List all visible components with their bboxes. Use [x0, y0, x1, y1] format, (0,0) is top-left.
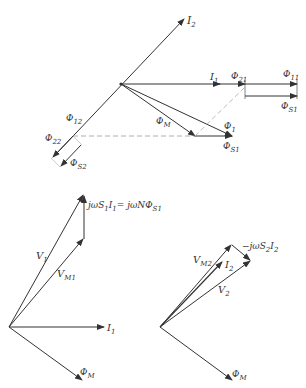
phim-arrow — [121, 84, 195, 136]
phi1-arrow — [121, 84, 232, 136]
svg-text:ΦS1: ΦS1 — [223, 141, 240, 154]
svg-text:ΦS2: ΦS2 — [70, 158, 87, 171]
svg-text:V1: V1 — [36, 250, 48, 264]
phi12-tick — [73, 136, 82, 145]
svg-text:I1: I1 — [106, 322, 115, 336]
svg-text:VM2: VM2 — [193, 254, 212, 268]
svg-text:ΦM: ΦM — [232, 369, 247, 382]
vm1-arrow — [9, 239, 83, 327]
secondary-voltage-phasor-diagram: −jωS2I2 VM2 I2 V2 ΦM — [160, 241, 279, 382]
svg-text:Φ1: Φ1 — [224, 121, 236, 134]
origin-point — [119, 82, 122, 85]
top-phasor-diagram: I2 I1 Φ21 Φ11 ΦS1 ΦM Φ1 ΦS1 Φ12 Φ22 ΦS2 — [45, 14, 299, 171]
phim-arrow-bottom-right — [160, 327, 232, 380]
phasor-diagram-figure: I2 I1 Φ21 Φ11 ΦS1 ΦM Φ1 ΦS1 Φ12 Φ22 ΦS2 … — [0, 0, 306, 388]
svg-text:Φ11: Φ11 — [283, 69, 299, 82]
svg-text:I2: I2 — [224, 259, 234, 273]
svg-text:VM1: VM1 — [57, 268, 76, 282]
svg-text:jωS1I1= jωNΦS1: jωS1I1= jωNΦS1 — [86, 200, 162, 213]
primary-voltage-phasor-diagram: jωS1I1= jωNΦS1 V1 VM1 I1 ΦM — [9, 195, 162, 380]
phi22-tick — [51, 158, 60, 167]
svg-text:V2: V2 — [218, 284, 230, 298]
svg-text:I2: I2 — [186, 14, 196, 29]
svg-text:−jωS2I2: −jωS2I2 — [242, 241, 279, 254]
svg-text:ΦS1: ΦS1 — [281, 101, 298, 114]
v2-arrow — [160, 261, 250, 327]
svg-text:Φ22: Φ22 — [45, 133, 62, 146]
svg-text:Φ12: Φ12 — [66, 113, 83, 126]
svg-text:I1: I1 — [209, 71, 218, 85]
svg-text:Φ21: Φ21 — [231, 71, 247, 84]
dashed-diagonal — [195, 87, 245, 136]
svg-text:ΦM: ΦM — [80, 367, 95, 380]
i2-arrow-bottom — [160, 262, 222, 327]
phim-arrow-bottom-left — [9, 327, 82, 380]
